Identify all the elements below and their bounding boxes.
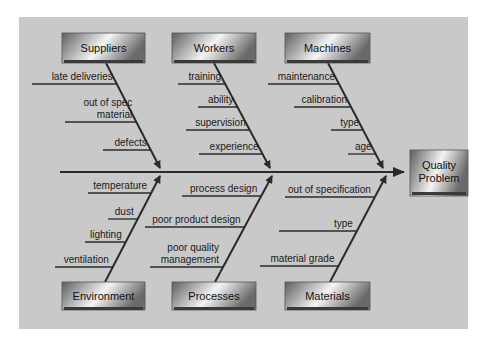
cause-label: calibration: [301, 94, 347, 105]
cause-label: ability: [208, 94, 234, 105]
cause-label: temperature: [93, 180, 147, 191]
category-label-materials: Materials: [305, 290, 350, 302]
effect-box-shadow: [412, 192, 466, 195]
cause-label: ventilation: [64, 254, 109, 265]
category-label-workers: Workers: [194, 42, 235, 54]
category-box-shadow: [64, 60, 143, 63]
cause-label: age: [355, 141, 372, 152]
category-box-shadow: [287, 60, 368, 63]
fishbone-diagram: QualityProblemSupplierslate deliveriesou…: [0, 0, 500, 346]
effect-label: Problem: [419, 172, 460, 184]
cause-label: out of spec: [83, 97, 132, 108]
category-box-shadow: [287, 307, 368, 310]
cause-label: type: [340, 117, 359, 128]
cause-label: management: [161, 254, 220, 265]
category-label-processes: Processes: [188, 290, 240, 302]
cause-label: training: [188, 71, 221, 82]
cause-label: late deliveries: [52, 71, 113, 82]
cause-label: dust: [115, 206, 134, 217]
cause-label: maintenance: [278, 71, 336, 82]
category-label-environment: Environment: [73, 290, 135, 302]
effect-label: Quality: [422, 159, 457, 171]
cause-label: experience: [210, 141, 259, 152]
cause-label: supervision: [195, 117, 246, 128]
cause-label: material grade: [271, 253, 335, 264]
cause-label: process design: [190, 183, 257, 194]
category-box-shadow: [64, 307, 143, 310]
cause-label: defects: [114, 137, 146, 148]
cause-label: material: [97, 109, 133, 120]
cause-label: type: [334, 218, 353, 229]
category-box-shadow: [174, 307, 254, 310]
cause-label: poor product design: [152, 214, 240, 225]
cause-label: poor quality: [167, 242, 219, 253]
cause-label: out of specification: [288, 184, 371, 195]
category-box-shadow: [174, 60, 254, 63]
category-label-suppliers: Suppliers: [81, 42, 127, 54]
cause-label: lighting: [90, 229, 122, 240]
category-label-machines: Machines: [304, 42, 352, 54]
